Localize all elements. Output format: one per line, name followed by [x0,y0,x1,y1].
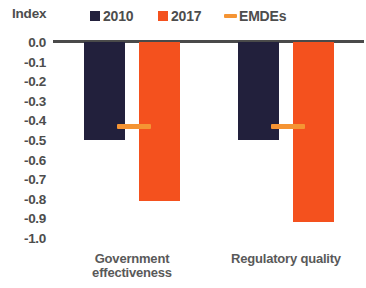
y-axis-tick-labels: 0.0-0.1-0.2-0.3-0.4-0.5-0.6-0.7-0.8-0.9-… [0,42,50,238]
legend-dash-emdes-icon [224,14,237,18]
y-tick-label: -0.8 [24,191,46,206]
legend-label-2017: 2017 [171,8,201,24]
bar-2017-1 [293,42,334,222]
legend-item-emdes[interactable]: EMDEs [224,6,286,26]
legend-swatch-2010-icon [90,11,100,21]
y-tick-label: -1.0 [24,231,46,246]
bar-2017-0 [139,42,180,201]
y-tick-label: 0.0 [28,35,46,50]
legend-item-2017[interactable]: 2017 [158,6,201,26]
y-tick-label: -0.2 [24,74,46,89]
legend-swatch-2017-icon [158,11,168,21]
category-label-line: Government [55,252,209,266]
y-tick-label: -0.1 [24,54,46,69]
y-tick-label: -0.6 [24,152,46,167]
emdes-marker-1 [271,124,305,129]
y-tick-label: -0.5 [24,133,46,148]
emdes-marker-0 [117,124,151,129]
plot-area [55,42,363,238]
category-label-line: effectiveness [55,266,209,280]
category-label-0: Governmenteffectiveness [55,252,209,280]
legend-label-emdes: EMDEs [239,8,286,24]
chart-container: Index 2010 2017 EMDEs 0.0-0.1-0.2-0.3-0.… [0,0,366,288]
legend-label-2010: 2010 [103,8,133,24]
legend-item-2010[interactable]: 2010 [90,6,133,26]
y-tick-label: -0.7 [24,172,46,187]
category-label-line: Regulatory quality [209,252,363,266]
y-tick-label: -0.9 [24,211,46,226]
chart-legend: 2010 2017 EMDEs [0,6,366,30]
x-axis-category-labels: GovernmenteffectivenessRegulatory qualit… [55,252,363,288]
y-tick-label: -0.3 [24,93,46,108]
category-label-1: Regulatory quality [209,252,363,266]
y-tick-label: -0.4 [24,113,46,128]
